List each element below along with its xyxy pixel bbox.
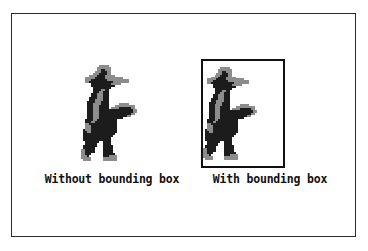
caption-without-bounding-box: Without bounding box [30,173,192,186]
panel-without-bounding-box: Without bounding box [30,14,190,236]
sprite-area-left [30,59,190,163]
bounding-box-rectangle [201,59,285,168]
figure-outer-frame: Without bounding box With bounding box [11,13,356,237]
caption-with-bounding-box: With bounding box [190,173,350,186]
figure-root: Without bounding box With bounding box [0,0,368,251]
panel-with-bounding-box: With bounding box [190,14,350,236]
pixel-art-cowboy-sprite-left [79,59,141,163]
